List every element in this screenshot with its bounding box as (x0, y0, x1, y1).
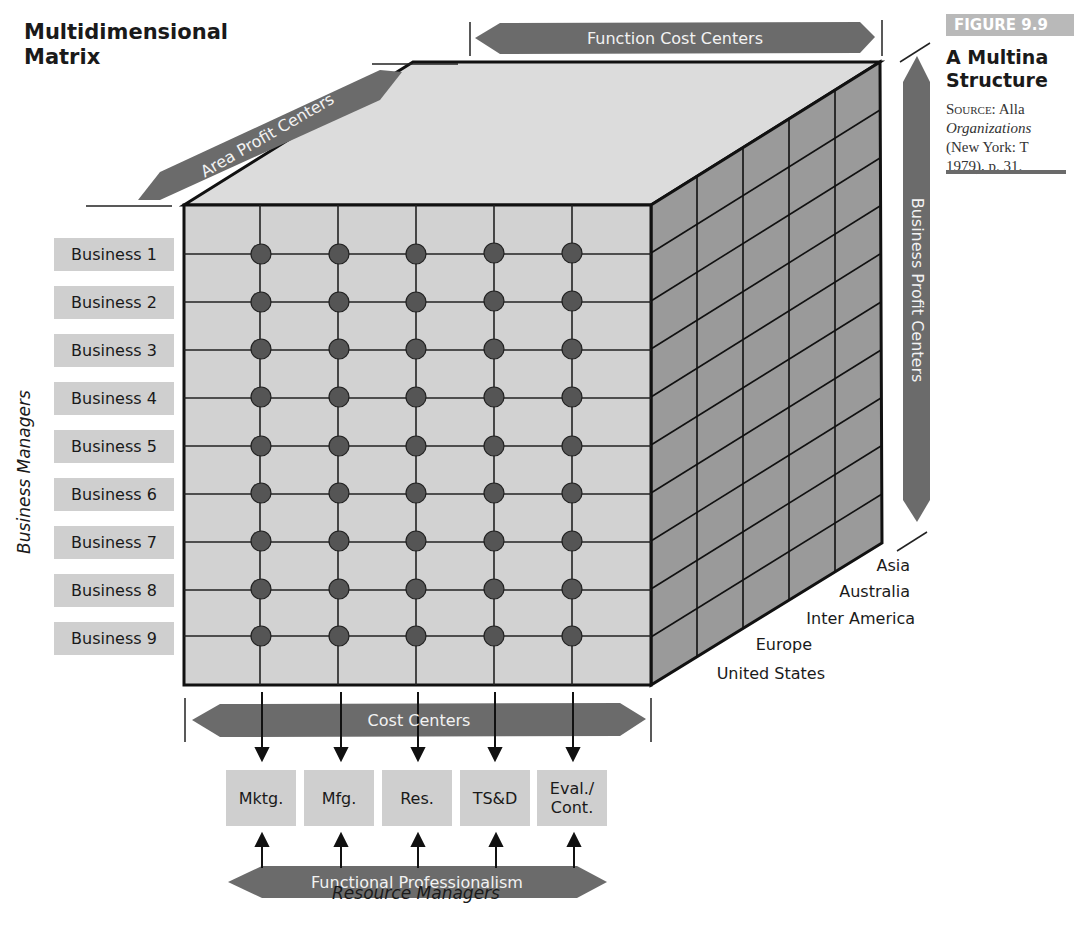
region-label: Australia (790, 582, 910, 602)
region-label: Asia (790, 556, 910, 576)
business-label: Business 5 (54, 430, 174, 463)
region-label: United States (660, 664, 825, 684)
business-label: Business 1 (54, 238, 174, 271)
business-label: Business 3 (54, 334, 174, 367)
function-box-mktg: Mktg. (226, 770, 296, 826)
function-box-tsd: TS&D (460, 770, 530, 826)
function-box-res: Res. (382, 770, 452, 826)
cost-centers-label: Cost Centers (368, 711, 471, 730)
business-profit-centers-label: Business Profit Centers (908, 198, 927, 383)
function-box-eval-cont: Eval./Cont. (537, 770, 607, 826)
up-arrows (256, 834, 580, 868)
region-label: Europe (700, 635, 812, 655)
business-label: Business 9 (54, 622, 174, 655)
resource-managers-label: Resource Managers (296, 882, 536, 904)
business-label: Business 4 (54, 382, 174, 415)
business-label: Business 7 (54, 526, 174, 559)
function-cost-centers-label: Function Cost Centers (587, 29, 763, 48)
business-label: Business 6 (54, 478, 174, 511)
business-label: Business 8 (54, 574, 174, 607)
function-box-mfg: Mfg. (304, 770, 374, 826)
region-label: Inter America (750, 609, 915, 629)
business-label: Business 2 (54, 286, 174, 319)
business-managers-label: Business Managers (12, 352, 36, 592)
